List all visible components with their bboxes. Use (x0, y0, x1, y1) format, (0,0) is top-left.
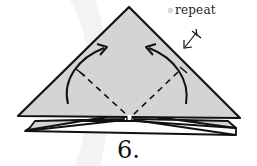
main-triangle (18, 7, 240, 121)
repeat-annotation: repeat (168, 3, 216, 17)
origami-diagram: repeat 6. (0, 0, 257, 166)
repeat-text: repeat (175, 3, 216, 17)
step-number: 6. (0, 137, 257, 163)
repeat-marker-icon (168, 8, 173, 13)
turn-over-arrow-icon (184, 29, 201, 48)
